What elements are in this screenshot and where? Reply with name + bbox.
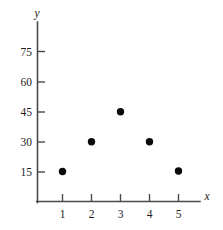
scatter-plot: 15 30 45 60 75 1 2 3 4 5 y x bbox=[0, 0, 223, 230]
data-point bbox=[146, 138, 153, 145]
y-tick-label-45: 45 bbox=[21, 106, 33, 118]
y-tick-label-30: 30 bbox=[21, 136, 33, 148]
y-axis-label: y bbox=[33, 7, 40, 20]
data-point bbox=[88, 138, 95, 145]
data-point bbox=[117, 108, 124, 115]
plot-canvas: 15 30 45 60 75 1 2 3 4 5 y x bbox=[0, 0, 223, 230]
plot-background bbox=[0, 0, 223, 230]
x-tick-label-3: 3 bbox=[118, 208, 124, 220]
data-point bbox=[59, 168, 66, 175]
y-tick-label-15: 15 bbox=[21, 166, 33, 178]
x-tick-label-1: 1 bbox=[60, 208, 66, 220]
y-tick-label-60: 60 bbox=[21, 76, 33, 88]
x-tick-label-4: 4 bbox=[147, 208, 153, 220]
x-tick-label-5: 5 bbox=[176, 208, 182, 220]
x-axis-label: x bbox=[203, 190, 210, 202]
data-point bbox=[175, 167, 182, 174]
y-tick-label-75: 75 bbox=[21, 46, 33, 58]
x-tick-label-2: 2 bbox=[89, 208, 95, 220]
